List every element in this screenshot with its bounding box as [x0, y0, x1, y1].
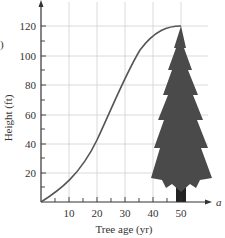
y-tick-20: 20 [25, 167, 37, 179]
y-tick-80: 80 [25, 79, 37, 91]
x-tick-10: 10 [64, 207, 76, 219]
y-axis-arrow-icon [39, 0, 44, 7]
x-axis-variable: a [216, 196, 222, 208]
y-tick-40: 40 [25, 138, 37, 150]
height-vs-age-chart: 10 20 30 40 50 20 40 60 80 100 120 Tree … [0, 0, 225, 238]
x-tick-20: 20 [92, 207, 104, 219]
y-tick-60: 60 [25, 109, 37, 121]
y-tick-labels: 20 40 60 80 100 120 [20, 20, 37, 179]
x-tick-40: 40 [148, 207, 160, 219]
x-axis-arrow-icon [205, 200, 212, 205]
x-tick-50: 50 [176, 207, 188, 219]
y-tick-120: 120 [20, 20, 37, 32]
tree-foliage [151, 26, 212, 192]
x-tick-labels: 10 20 30 40 50 [64, 207, 188, 219]
y-tick-100: 100 [20, 50, 37, 62]
cropped-label-fragment: ) [0, 38, 4, 51]
y-axis-title: Height (ft) [2, 94, 15, 141]
x-tick-30: 30 [120, 207, 132, 219]
x-axis-title: Tree age (yr) [95, 223, 152, 236]
tree-illustration [151, 26, 212, 202]
